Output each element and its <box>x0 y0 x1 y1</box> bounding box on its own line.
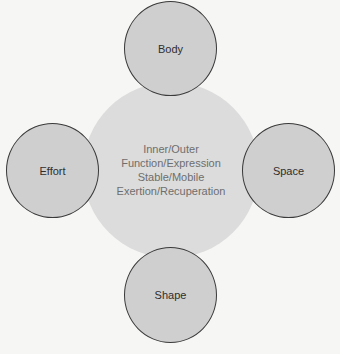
node-label: Body <box>158 43 183 55</box>
node-label: Shape <box>155 289 187 301</box>
center-text-line: Exertion/Recuperation <box>117 184 226 198</box>
node-shape: Shape <box>124 247 217 343</box>
node-effort: Effort <box>6 123 99 218</box>
center-text-line: Stable/Mobile <box>138 170 205 184</box>
node-body: Body <box>124 1 217 96</box>
node-space: Space <box>242 123 335 218</box>
center-circle: Inner/Outer Function/Expression Stable/M… <box>83 82 259 258</box>
node-label: Space <box>273 165 304 177</box>
center-text-line: Function/Expression <box>121 156 221 170</box>
center-text-line: Inner/Outer <box>143 142 199 156</box>
node-label: Effort <box>39 165 65 177</box>
